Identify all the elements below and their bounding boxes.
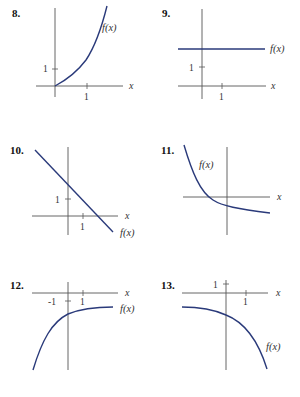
graph-9: 9. 1 1 x f(x) [162,7,285,102]
y-tick-label: -1 [48,297,56,307]
graph-number: 9. [162,7,171,19]
x-tick-label: 1 [84,92,89,102]
curve-label: f(x) [120,227,135,239]
graph-number: 10. [10,144,24,156]
curve-label: f(x) [266,341,281,353]
graph-11: 11. x f(x) [161,144,282,235]
x-axis-label: x [276,191,282,202]
curve-label: f(x) [120,303,135,315]
x-axis-label: x [124,287,130,298]
graph-number: 12. [10,279,24,291]
graph-8: 8. 1 1 x f(x) [12,6,134,102]
curve [55,6,107,86]
x-axis-label: x [275,287,281,298]
y-tick-label: 1 [55,195,60,205]
x-tick-label: 1 [80,297,85,307]
curve-label: f(x) [270,43,285,55]
graph-number: 13. [161,279,175,291]
x-axis-label: x [128,80,134,91]
x-tick-label: 1 [243,297,248,307]
y-tick-label: 1 [213,280,218,290]
y-tick-label: 1 [189,63,194,73]
graph-10: 10. 1 1 x f(x) [10,144,135,239]
curve-label: f(x) [199,159,214,171]
curve [182,307,267,369]
x-tick-label: 1 [80,222,85,232]
x-tick-label: 1 [219,92,224,102]
graph-12: 12. -1 1 x f(x) [10,279,135,370]
curve-label: f(x) [102,22,117,34]
x-axis-label: x [270,80,276,91]
graph-13: 13. 1 1 x f(x) [161,279,281,370]
x-axis-label: x [124,210,130,221]
graph-number: 8. [12,7,21,19]
y-tick-label: 1 [43,64,48,74]
curve [35,150,113,232]
curve [33,307,113,370]
graph-number: 11. [161,144,174,156]
graphs-canvas: 8. 1 1 x f(x) 9. 1 1 x f(x) 10. 1 1 x f(… [0,0,300,397]
